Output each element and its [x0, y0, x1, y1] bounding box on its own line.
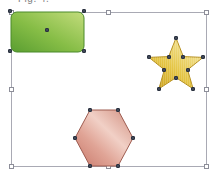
rectangle-handle-bottom-right[interactable]	[82, 49, 86, 53]
rectangle-handle-top-right[interactable]	[82, 9, 86, 13]
selection-handle-bottom-left[interactable]	[9, 164, 14, 169]
selection-handle-top-right[interactable]	[204, 10, 209, 15]
rectangle-path	[11, 12, 84, 52]
shape-rounded-rectangle[interactable]	[10, 11, 85, 53]
hexagon-handle-left[interactable]	[73, 136, 77, 140]
hexagon-handle-top-right[interactable]	[116, 108, 120, 112]
star-handle-inner-top-right[interactable]	[181, 55, 185, 59]
star-handle-point-right[interactable]	[201, 55, 205, 59]
hexagon-handle-right[interactable]	[131, 136, 135, 140]
selection-handle-middle-left[interactable]	[9, 87, 14, 92]
rectangle-handle-top-left[interactable]	[8, 9, 12, 13]
star-handle-point-bottom-right[interactable]	[191, 87, 195, 91]
star-handle-point-left[interactable]	[147, 55, 151, 59]
star-handle-inner-bottom[interactable]	[174, 76, 178, 80]
selection-handle-top-middle[interactable]	[106, 10, 111, 15]
hexagon-handle-bottom-right[interactable]	[116, 164, 120, 168]
shape-hexagon[interactable]	[73, 108, 135, 168]
drawing-canvas[interactable]: Fig. 4.	[0, 0, 217, 179]
star-handle-inner-right[interactable]	[186, 68, 190, 72]
star-handle-inner-left[interactable]	[162, 68, 166, 72]
clipped-caption-text: Fig. 4.	[18, 0, 88, 5]
star-texture-overlay	[149, 38, 203, 89]
star-handle-point-bottom-left[interactable]	[157, 87, 161, 91]
hexagon-handle-bottom-left[interactable]	[88, 164, 92, 168]
selection-handle-bottom-right[interactable]	[204, 164, 209, 169]
star-handle-point-top[interactable]	[174, 36, 178, 40]
star-handle-inner-top-left[interactable]	[167, 55, 171, 59]
hexagon-path	[75, 110, 133, 166]
hexagon-handle-top-left[interactable]	[88, 108, 92, 112]
rectangle-handle-bottom-left[interactable]	[8, 49, 12, 53]
rectangle-handle-center[interactable]	[45, 28, 49, 32]
shape-star[interactable]	[147, 36, 205, 94]
